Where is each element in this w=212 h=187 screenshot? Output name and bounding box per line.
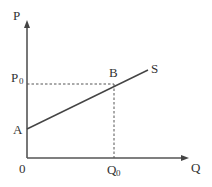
p0-label: P 0 xyxy=(11,70,24,86)
y-axis-label: P xyxy=(13,8,20,23)
svg-text:0: 0 xyxy=(19,76,24,86)
svg-text:P: P xyxy=(11,70,18,85)
y-axis-arrow-icon xyxy=(24,20,30,28)
curve-s-label: S xyxy=(151,61,158,76)
x-axis-arrow-icon xyxy=(181,155,189,161)
origin-label: 0 xyxy=(19,161,26,176)
supply-diagram: P Q 0 A B S P 0 Q 0 xyxy=(0,0,212,187)
point-b-label: B xyxy=(109,65,118,80)
q0-label: Q 0 xyxy=(107,162,121,178)
x-axis-label: Q xyxy=(191,160,201,175)
point-a-label: A xyxy=(13,122,23,137)
svg-text:0: 0 xyxy=(116,168,121,178)
supply-curve xyxy=(27,70,148,129)
